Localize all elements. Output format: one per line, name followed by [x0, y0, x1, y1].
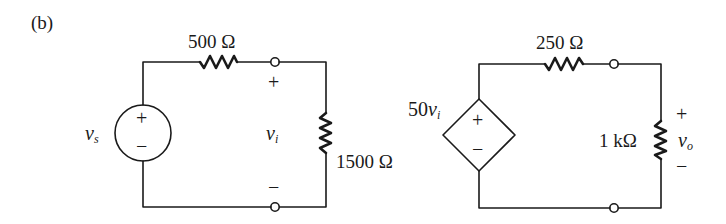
terminal-bottom-left: [271, 203, 279, 211]
dependent-minus-sign: −: [472, 139, 483, 159]
wire: [618, 64, 661, 121]
gain-value: 50: [408, 98, 428, 120]
terminal-top-right: [610, 60, 618, 68]
resistor-500-ohm: [200, 56, 237, 68]
wire: [618, 159, 661, 208]
vo-symbol: v: [678, 129, 687, 151]
controlling-voltage-subscript: i: [437, 108, 440, 122]
vs-minus-sign: −: [136, 136, 147, 156]
terminal-top-left: [271, 58, 279, 66]
vo-plus-sign: +: [676, 104, 687, 124]
resistor-250-ohm-label: 250 Ω: [536, 33, 583, 52]
resistor-250-ohm: [545, 58, 583, 70]
input-circuit: [115, 56, 331, 211]
panel-label: (b): [31, 13, 53, 32]
resistor-500-ohm-label: 500 Ω: [188, 32, 235, 51]
vi-symbol: v: [266, 122, 275, 144]
circuit-diagram: [0, 0, 726, 224]
controlling-voltage-symbol: v: [428, 98, 437, 120]
terminal-bottom-right: [610, 204, 618, 212]
resistor-1k-ohm: [655, 121, 666, 159]
resistor-1500-ohm: [320, 113, 331, 153]
wire: [479, 64, 545, 99]
vs-symbol: v: [85, 122, 94, 144]
vs-subscript: s: [94, 132, 99, 146]
vi-label: vi: [266, 123, 278, 145]
vs-label: vs: [85, 123, 99, 145]
dependent-plus-sign: +: [472, 110, 483, 130]
wire: [279, 153, 326, 207]
vi-plus-sign: +: [268, 72, 279, 92]
vi-minus-sign: −: [268, 177, 279, 197]
wire: [279, 62, 326, 113]
wire: [143, 161, 271, 207]
resistor-1500-ohm-label: 1500 Ω: [336, 152, 393, 171]
vo-minus-sign: −: [676, 156, 687, 176]
wire: [479, 171, 610, 208]
wire: [143, 62, 200, 105]
vi-subscript: i: [275, 132, 278, 146]
dependent-source-label: 50vi: [408, 99, 440, 121]
vs-plus-sign: +: [136, 108, 147, 128]
vo-subscript: o: [687, 139, 693, 153]
vo-label: vo: [678, 130, 693, 152]
resistor-1k-ohm-label: 1 kΩ: [599, 131, 637, 150]
